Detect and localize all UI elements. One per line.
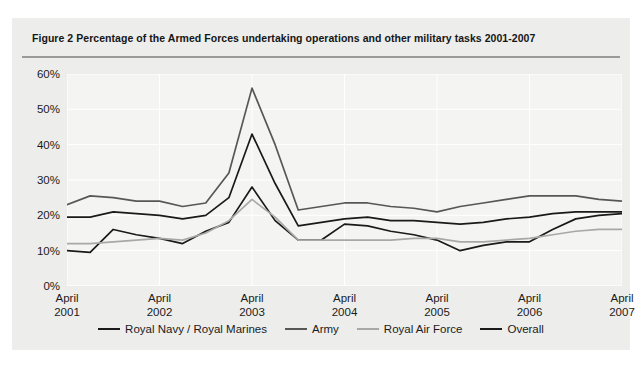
legend-label: Royal Air Force — [384, 323, 463, 335]
legend-label: Overall — [507, 323, 543, 335]
legend-line-icon — [357, 328, 379, 330]
x-axis-tick-line: April — [495, 292, 565, 306]
figure-card: Figure 2 Percentage of the Armed Forces … — [12, 18, 630, 350]
legend-line-icon — [98, 328, 120, 330]
x-axis-tick-label: April2006 — [495, 292, 565, 319]
x-axis-tick-line: 2004 — [310, 306, 380, 320]
x-axis-tick-label: April2003 — [217, 292, 287, 319]
plot-area — [67, 74, 622, 286]
legend-label: Royal Navy / Royal Marines — [125, 323, 267, 335]
legend-label: Army — [312, 323, 339, 335]
x-axis-tick-label: April2001 — [32, 292, 102, 319]
y-axis-tick-label: 50% — [12, 103, 60, 115]
chart-svg — [67, 74, 622, 286]
y-axis-tick-label: 60% — [12, 68, 60, 80]
x-axis-tick-line: 2002 — [125, 306, 195, 320]
x-axis-tick-line: April — [125, 292, 195, 306]
legend-line-icon — [285, 328, 307, 330]
legend-item[interactable]: Royal Navy / Royal Marines — [98, 323, 267, 335]
x-axis-tick-line: April — [402, 292, 472, 306]
chart-container: 0%10%20%30%40%50%60% April2001April2002A… — [12, 62, 630, 312]
chart-legend: Royal Navy / Royal MarinesArmyRoyal Air … — [12, 318, 630, 340]
y-axis-tick-label: 30% — [12, 174, 60, 186]
title-divider — [22, 56, 620, 58]
legend-line-icon — [480, 328, 502, 330]
x-axis-tick-line: April — [310, 292, 380, 306]
x-axis-tick-line: 2003 — [217, 306, 287, 320]
x-axis-tick-line: 2005 — [402, 306, 472, 320]
x-axis-tick-line: April — [217, 292, 287, 306]
x-axis-tick-line: 2007 — [587, 306, 642, 320]
x-axis-tick-label: April2002 — [125, 292, 195, 319]
x-axis-tick-label: April2004 — [310, 292, 380, 319]
y-axis-tick-label: 10% — [12, 245, 60, 257]
legend-item[interactable]: Royal Air Force — [357, 323, 463, 335]
x-axis-tick-line: April — [32, 292, 102, 306]
legend-item[interactable]: Overall — [480, 323, 543, 335]
x-axis-tick-line: 2006 — [495, 306, 565, 320]
y-axis-tick-label: 40% — [12, 139, 60, 151]
x-axis-tick-label: April2005 — [402, 292, 472, 319]
legend-item[interactable]: Army — [285, 323, 339, 335]
y-axis-tick-label: 20% — [12, 209, 60, 221]
x-axis-tick-label: April2007 — [587, 292, 642, 319]
y-axis-tick-label: 0% — [12, 280, 60, 292]
page-title: Figure 2 Percentage of the Armed Forces … — [32, 32, 535, 44]
x-axis-tick-line: 2001 — [32, 306, 102, 320]
x-axis-tick-line: April — [587, 292, 642, 306]
